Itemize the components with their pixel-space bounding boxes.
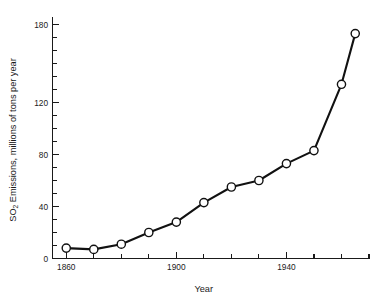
data-point-marker	[351, 29, 359, 37]
data-point-marker	[282, 160, 290, 168]
y-axis-tick-label: 120	[34, 98, 48, 108]
data-point-marker	[90, 245, 98, 253]
data-point-marker	[62, 244, 70, 252]
data-point-marker	[337, 80, 345, 88]
x-axis-tick-label: 1940	[277, 262, 296, 272]
y-axis-tick-label: 180	[34, 20, 48, 30]
data-point-marker	[227, 183, 235, 191]
so2-emissions-line-chart: 04080120180186019001940YearSO2 Emissions…	[0, 0, 379, 301]
data-point-marker	[172, 218, 180, 226]
data-point-marker	[255, 176, 263, 184]
data-point-marker	[145, 228, 153, 236]
y-axis-tick-label: 40	[39, 202, 49, 212]
y-axis-tick-label: 0	[43, 254, 48, 264]
x-axis-tick-label: 1900	[167, 262, 186, 272]
x-axis-title: Year	[194, 284, 213, 294]
data-point-marker	[117, 240, 125, 248]
x-axis-tick-label: 1860	[57, 262, 76, 272]
chart-container: 04080120180186019001940YearSO2 Emissions…	[0, 0, 379, 301]
series-line-so2-emissions	[66, 34, 355, 250]
data-point-marker	[310, 147, 318, 155]
y-axis-title: SO2 Emissions, millions of tons per year	[8, 58, 19, 222]
y-axis-tick-label: 80	[39, 150, 49, 160]
data-point-marker	[200, 199, 208, 207]
